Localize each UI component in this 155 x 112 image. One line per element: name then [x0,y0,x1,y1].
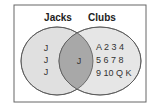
jacks-only-item: J [44,55,49,65]
jacks-only-item: J [44,43,49,53]
intersection-item: J [77,56,82,66]
clubs-label: Clubs [88,12,116,23]
venn-diagram: Jacks Clubs J J J J A 2 3 4 5 6 7 8 9 10… [0,0,155,112]
clubs-row-1: A 2 3 4 [96,42,124,52]
clubs-row-2: 5 6 7 8 [96,55,124,65]
jacks-label: Jacks [44,12,72,23]
clubs-row-3: 9 10 Q K [96,68,132,78]
jacks-only-item: J [44,67,49,77]
